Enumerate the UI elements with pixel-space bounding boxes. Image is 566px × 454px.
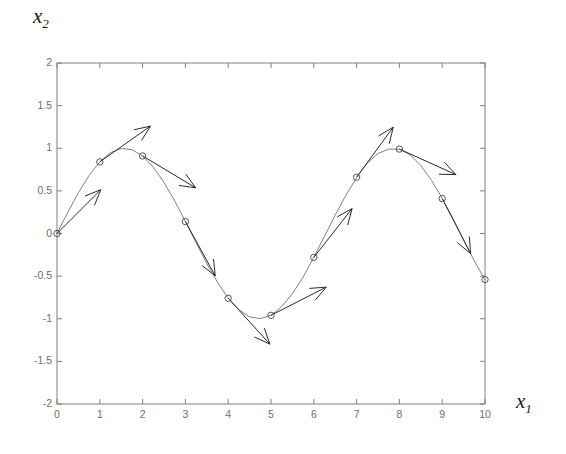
arrow-at-x5 <box>271 287 326 315</box>
x-tick-label: 10 <box>476 408 494 420</box>
arrow-at-x7 <box>357 127 394 177</box>
x-tick-label: 8 <box>390 408 408 420</box>
sine-curve <box>57 149 485 319</box>
y-tick-label: 0.5 <box>24 184 52 196</box>
x-tick-label: 6 <box>305 408 323 420</box>
x-axis-label: x1 <box>516 389 532 417</box>
axis-ticks <box>57 63 485 404</box>
x-tick-label: 4 <box>219 408 237 420</box>
arrow-at-x6 <box>314 209 352 258</box>
direction-arrows <box>57 126 471 344</box>
y-tick-label: 1.5 <box>24 99 52 111</box>
y-tick-label: 0 <box>24 227 52 239</box>
y-axis-label: x2 <box>33 4 49 32</box>
arrow-at-x8 <box>399 149 456 175</box>
axes-frame <box>57 63 485 404</box>
y-tick-label: 1 <box>24 141 52 153</box>
data-point-markers <box>54 146 488 319</box>
x-tick-label: 7 <box>348 408 366 420</box>
arrow-at-x0 <box>57 190 101 234</box>
y-tick-label: -0.5 <box>24 269 52 281</box>
x-tick-label: 1 <box>91 408 109 420</box>
plot-figure <box>0 0 566 454</box>
arrow-at-x4 <box>228 298 270 344</box>
x-tick-label: 0 <box>48 408 66 420</box>
x-tick-label: 5 <box>262 408 280 420</box>
arrow-at-x2 <box>143 156 196 188</box>
y-tick-label: -1.5 <box>24 354 52 366</box>
y-tick-label: 2 <box>24 56 52 68</box>
arrow-at-x9 <box>442 199 470 254</box>
x-tick-label: 3 <box>176 408 194 420</box>
x-tick-label: 9 <box>433 408 451 420</box>
y-tick-label: -1 <box>24 312 52 324</box>
x-tick-label: 2 <box>134 408 152 420</box>
y-tick-label: -2 <box>24 397 52 409</box>
arrow-at-x3 <box>185 222 215 276</box>
